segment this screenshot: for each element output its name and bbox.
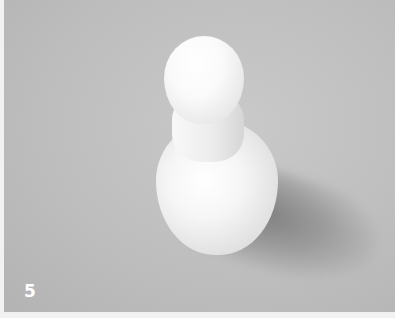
image-frame: 5 [0,0,395,318]
photo: 5 [4,0,395,312]
figure-number-label: 5 [24,283,36,300]
object-head [164,36,244,124]
